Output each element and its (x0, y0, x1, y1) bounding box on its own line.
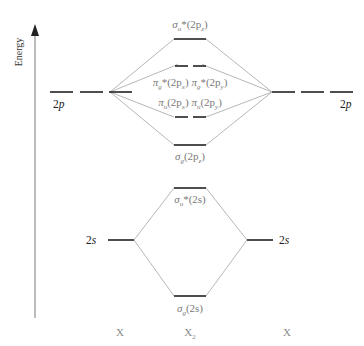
bottom-label-right-atom: X (283, 326, 291, 338)
mo-sigma-u-star-2pz-label: σu*(2pz) (172, 18, 208, 33)
left-2p-label: 2p (53, 98, 65, 111)
mo-sigma-u-star-2s-label: σu*(2s) (174, 193, 206, 208)
bottom-label-left-atom: X (116, 326, 124, 338)
mo-pi-g-star-label: πg*(2px) πg*(2py) (153, 76, 228, 91)
left-2s-label: 2s (86, 234, 97, 246)
right-2p-label: 2p (340, 98, 352, 111)
mo-pi-u-label: πu(2px) πu(2py) (158, 96, 222, 111)
mo-sigma-g-2s-label: σg(2s) (177, 302, 203, 317)
right-2s-label: 2s (279, 234, 290, 246)
bottom-label-molecule: X2 (184, 326, 196, 341)
mo-sigma-g-2pz-label: σg(2pz) (175, 150, 205, 165)
energy-axis-arrowhead-icon (31, 24, 39, 36)
mo-diagram: Energy 2p 2p 2s 2s (0, 0, 364, 346)
energy-axis-label: Energy (13, 38, 24, 67)
